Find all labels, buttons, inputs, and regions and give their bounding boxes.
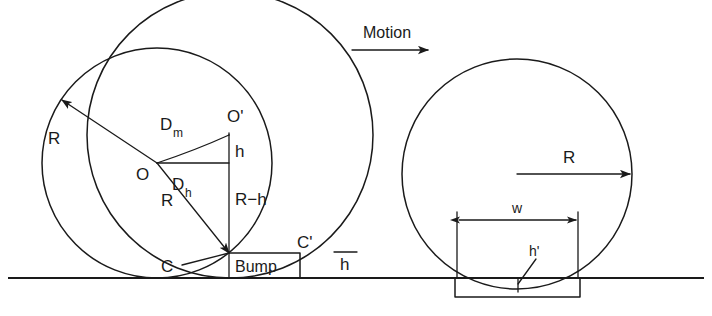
label-dh-subscript: h <box>185 186 192 200</box>
c-leader-line <box>182 253 229 265</box>
wheel-circle-at-o-prime <box>87 0 373 278</box>
label-radius-inner: R <box>161 191 173 210</box>
dm-arc-line <box>157 135 229 163</box>
radius-arrow-outer <box>62 100 157 163</box>
label-bump-height: h <box>340 255 349 274</box>
h-prime-leader-line <box>518 259 536 284</box>
label-dh: D <box>172 175 184 194</box>
left-panel-bump-case: R O O' D m D h h R−h R C C' Bump h <box>42 0 373 278</box>
label-dm-subscript: m <box>173 126 183 140</box>
label-center-o-prime: O' <box>227 107 243 126</box>
label-contact-c-prime: C' <box>297 233 313 252</box>
label-center-o: O <box>136 165 149 184</box>
label-r-minus-h: R−h <box>235 190 267 209</box>
label-bump: Bump <box>235 258 277 275</box>
label-dm: D <box>160 115 172 134</box>
label-contact-c: C <box>161 257 173 276</box>
label-radius-outer: R <box>48 129 60 148</box>
right-panel-pothole-case: Motion R w h' <box>352 24 632 297</box>
label-motion: Motion <box>363 24 411 41</box>
label-rise-h: h <box>235 142 244 161</box>
diagram-root: R O O' D m D h h R−h R C C' Bump h Motio… <box>0 0 712 316</box>
label-width-w: w <box>511 200 523 216</box>
label-depth-h-prime: h' <box>529 243 539 259</box>
technical-diagram: R O O' D m D h h R−h R C C' Bump h Motio… <box>0 0 712 316</box>
label-radius-pothole: R <box>563 148 575 167</box>
